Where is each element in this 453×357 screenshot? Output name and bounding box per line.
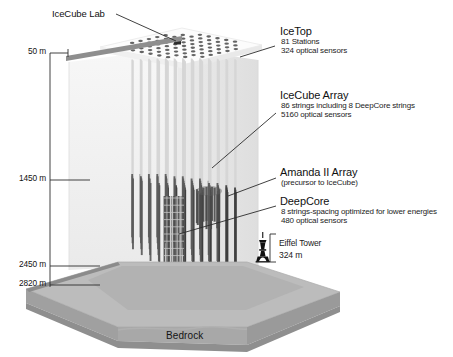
icetop-station-dot bbox=[182, 45, 187, 47]
diagram-canvas bbox=[0, 0, 453, 357]
icetop-station-dot bbox=[207, 39, 212, 41]
icetop-station-dot bbox=[147, 38, 152, 40]
icetop-station-dot bbox=[189, 36, 194, 38]
icetop-station-dot bbox=[180, 34, 185, 36]
icetop-station-dot bbox=[191, 50, 196, 52]
ice-volume bbox=[69, 48, 258, 270]
icetop-station-dot bbox=[173, 47, 178, 49]
icetop-station-dot bbox=[215, 37, 220, 39]
icetop-station-dot bbox=[181, 41, 186, 43]
icetop-station-dot bbox=[157, 54, 162, 56]
icetop-station-dot bbox=[233, 41, 238, 43]
icetop-station-dot bbox=[166, 56, 171, 58]
icetop-station-dot bbox=[233, 44, 238, 46]
icetop-station-dot bbox=[199, 45, 204, 47]
icetop-station-dot bbox=[208, 46, 213, 48]
icetop-station-dot bbox=[190, 47, 195, 49]
depth-label-2450m: 2450 m bbox=[0, 260, 46, 270]
icetop-station-dot bbox=[183, 52, 188, 54]
callout-eiffel-title: Eiffel Tower bbox=[279, 238, 321, 248]
bedrock-label: Bedrock bbox=[166, 330, 203, 342]
icetop-station-dot bbox=[148, 53, 153, 55]
icetop-station-dot bbox=[206, 35, 211, 37]
icetop-station-dot bbox=[156, 47, 161, 49]
depth-label-50m: 50 m bbox=[0, 47, 46, 57]
icetop-station-dot bbox=[199, 48, 204, 50]
icetop-station-dot bbox=[208, 54, 213, 56]
icetop-station-dot bbox=[225, 46, 230, 48]
icetop-station-dot bbox=[182, 49, 187, 51]
eiffel-bracket bbox=[270, 234, 276, 262]
icetop-station-dot bbox=[225, 50, 230, 52]
icetop-station-dot bbox=[198, 37, 203, 39]
icetop-station-dot bbox=[224, 39, 229, 41]
amanda-cap bbox=[196, 186, 222, 196]
callout-icetop-line2: 324 optical sensors bbox=[281, 46, 347, 55]
icetop-station-dot bbox=[216, 44, 221, 46]
icetop-station-dot bbox=[198, 34, 203, 36]
icetop-station-dot bbox=[157, 51, 162, 53]
depth-label-1450m: 1450 m bbox=[0, 174, 46, 184]
icetop-station-dot bbox=[200, 52, 205, 54]
icetop-station-dot bbox=[216, 48, 221, 50]
icetop-station-dot bbox=[174, 50, 179, 52]
icetop-station-dot bbox=[234, 48, 239, 50]
callout-deepcore-line2: 480 optical sensors bbox=[281, 216, 347, 225]
callout-icecube-lab-title: IceCube Lab bbox=[52, 8, 105, 19]
icetop-station-dot bbox=[183, 56, 188, 58]
icetop-station-dot bbox=[165, 49, 170, 51]
icetop-station-dot bbox=[174, 54, 179, 56]
icetop-station-dot bbox=[207, 43, 212, 45]
icetop-station-dot bbox=[190, 43, 195, 45]
callout-eiffel-line1: 324 m bbox=[279, 250, 302, 260]
deepcore-cluster bbox=[164, 196, 184, 272]
icetop-station-dot bbox=[224, 43, 229, 45]
icetop-station-dot bbox=[216, 41, 221, 43]
icetop-station-dot bbox=[217, 52, 222, 54]
icetop-station-dot bbox=[191, 54, 196, 56]
icetop-station-dot bbox=[130, 42, 135, 44]
icetop-station-dot bbox=[155, 36, 160, 38]
icecube-diagram-figure: IceCube Lab IceTop 81 Stations 324 optic… bbox=[0, 0, 453, 357]
eiffel-tower-icon bbox=[256, 232, 276, 263]
icetop-station-dot bbox=[200, 56, 205, 58]
callout-amanda-line1: (precursor to IceCube) bbox=[281, 178, 358, 187]
icetop-station-dot bbox=[198, 41, 203, 43]
icetop-station-dot bbox=[165, 52, 170, 54]
icetop-station-dot bbox=[139, 51, 144, 53]
callout-icecube-array-line2: 5160 optical sensors bbox=[281, 110, 351, 119]
icetop-station-dot bbox=[138, 40, 143, 42]
ice-face-left bbox=[69, 48, 178, 270]
depth-label-2820m: 2820 m bbox=[0, 279, 46, 289]
icetop-station-dot bbox=[148, 49, 153, 51]
icetop-station-dot bbox=[208, 50, 213, 52]
icetop-station-dot bbox=[190, 39, 195, 41]
icetop-station-dot bbox=[165, 45, 170, 47]
